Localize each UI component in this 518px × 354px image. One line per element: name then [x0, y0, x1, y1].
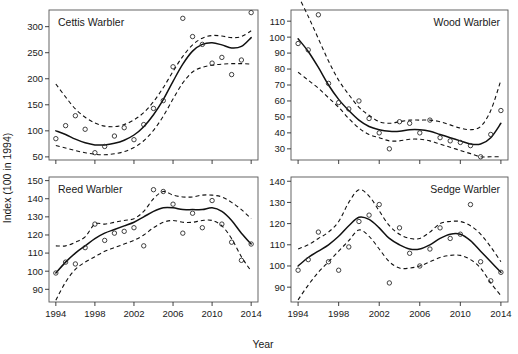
- y-tick-label: 110: [270, 239, 285, 250]
- x-tick-label: 1994: [288, 308, 309, 319]
- y-tick-label: 120: [27, 229, 43, 240]
- y-tick-label: 120: [269, 218, 285, 229]
- y-tick-label: 100: [27, 125, 43, 136]
- y-tick-label: 200: [27, 73, 43, 84]
- x-tick-label: 1998: [328, 308, 349, 319]
- y-tick-label: 130: [27, 211, 43, 222]
- y-tick-label: 150: [27, 175, 43, 186]
- panel-title: Reed Warbler: [58, 183, 123, 195]
- y-tick-label: 150: [27, 99, 43, 110]
- y-tick-label: 70: [274, 79, 285, 90]
- panel-title: Cettis Warbler: [58, 16, 125, 28]
- y-tick-label: 60: [274, 95, 285, 106]
- panel-frame: [291, 10, 508, 160]
- y-tick-label: 140: [269, 176, 285, 187]
- x-tick-label: 1998: [84, 308, 105, 319]
- y-axis-title: Index (100 in 1994): [1, 133, 13, 223]
- multi-panel-chart: 50100150200250300Cettis Warbler304050607…: [0, 0, 518, 354]
- y-tick-label: 300: [27, 21, 43, 32]
- panel-frame: [49, 177, 258, 302]
- y-tick-label: 100: [269, 32, 285, 43]
- x-tick-label: 2002: [369, 308, 390, 319]
- x-tick-label: 1994: [45, 308, 66, 319]
- panel-top-left: 50100150200250300Cettis Warbler: [27, 10, 258, 164]
- panel-frame: [291, 177, 508, 302]
- y-tick-label: 50: [32, 151, 43, 162]
- y-tick-label: 30: [274, 143, 285, 154]
- figure-container: 50100150200250300Cettis Warbler304050607…: [0, 0, 518, 354]
- x-tick-label: 2010: [202, 308, 223, 319]
- y-tick-label: 80: [274, 63, 285, 74]
- panel-title: Wood Warbler: [433, 16, 500, 28]
- y-tick-label: 110: [28, 247, 43, 258]
- y-tick-label: 50: [274, 111, 285, 122]
- y-tick-label: 140: [27, 193, 43, 204]
- y-tick-label: 100: [269, 260, 285, 271]
- y-tick-label: 100: [27, 266, 43, 277]
- x-tick-label: 2006: [409, 308, 430, 319]
- x-tick-label: 2010: [450, 308, 471, 319]
- panel-bottom-right: 9010011012013014019941998200220062010201…: [269, 176, 511, 319]
- panel-top-right: 30405060708090100110Wood Warbler: [269, 0, 508, 164]
- x-tick-label: 2014: [241, 308, 262, 319]
- y-tick-label: 90: [32, 284, 43, 295]
- x-tick-label: 2002: [123, 308, 144, 319]
- y-tick-label: 110: [270, 16, 285, 27]
- y-tick-label: 90: [274, 47, 285, 58]
- x-tick-label: 2006: [162, 308, 183, 319]
- panel-frame: [49, 10, 258, 160]
- y-tick-label: 130: [269, 197, 285, 208]
- panel-title: Sedge Warbler: [430, 183, 500, 195]
- x-axis-title: Year: [252, 338, 274, 350]
- x-tick-label: 2014: [490, 308, 511, 319]
- panel-bottom-left: 9010011012013014015019941998200220062010…: [27, 175, 262, 319]
- y-tick-label: 40: [274, 127, 285, 138]
- y-tick-label: 90: [274, 282, 285, 293]
- y-tick-label: 250: [27, 47, 43, 58]
